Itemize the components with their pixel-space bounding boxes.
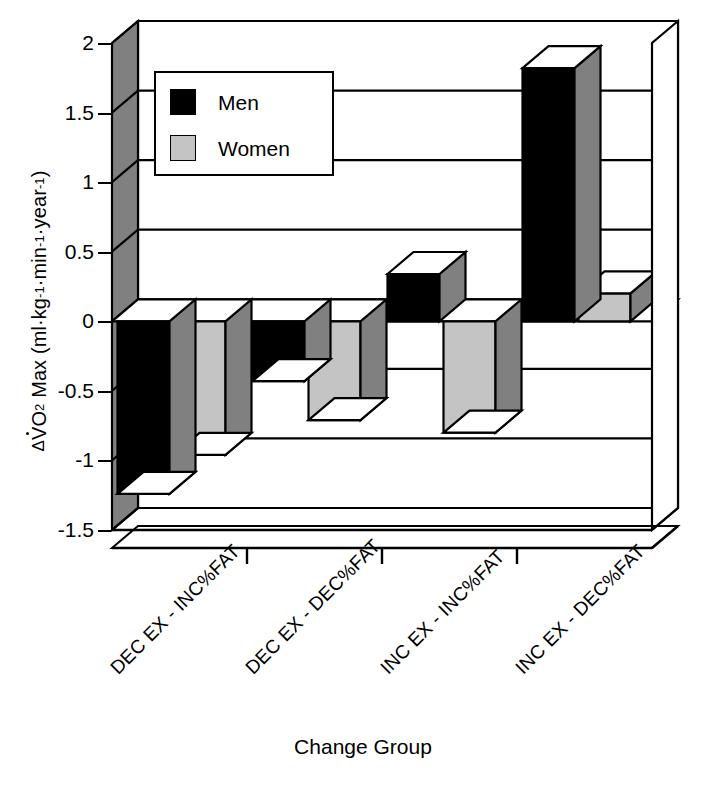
x-axis-baseline-right-connector [652,526,678,548]
chart-figure: ΔVO2 Max (ml·kg-1·min-1·year-1) 21.510.5… [0,0,726,789]
bar-women-group-1-side [226,299,252,455]
plot-right-edge [652,21,678,530]
y-axis-tick-label-7: -1.5 [28,519,94,540]
y-axis-tickmark-6 [98,460,111,462]
chart-canvas [0,0,726,789]
y-axis-tick-label-6: -1 [28,449,94,470]
y-axis-tickmark-5 [98,391,111,393]
bar-men-group-3-front [388,274,440,321]
legend-item-men: Men [170,89,259,115]
y-axis-tickmark-0 [98,43,111,45]
legend: Men Women [154,71,334,176]
y-axis-tick-label-0: 2 [28,32,94,53]
plot-area [0,0,726,789]
bar-men-group-1-front [118,321,170,494]
y-axis-tick-label-2: 1 [28,171,94,192]
legend-item-women: Women [170,135,290,161]
bar-men-group-1-side [170,299,196,494]
x-axis-title: Change Group [0,735,726,759]
y-axis-tick-label-1: 1.5 [28,102,94,123]
y-axis-tickmark-4 [98,321,111,323]
y-axis-tick-label-3: 0.5 [28,241,94,262]
legend-label-women: Women [218,138,290,159]
legend-swatch-men [170,89,196,115]
bar-men-group-4-side [575,46,601,321]
y-axis-tick-label-5: -0.5 [28,380,94,401]
legend-label-men: Men [218,92,259,113]
legend-swatch-women [170,135,196,161]
y-axis-tickmark-7 [98,530,111,532]
y-axis-tickmark-3 [98,252,111,254]
y-axis-tick-label-4: 0 [28,310,94,331]
y-axis-tickmark-2 [98,182,111,184]
y-axis-tickmark-1 [98,113,111,115]
bar-men-group-4-front [523,68,575,321]
